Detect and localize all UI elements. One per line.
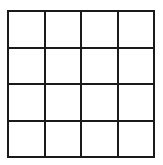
grid-cell[interactable] (119, 85, 154, 120)
grid-cell[interactable] (9, 49, 44, 84)
grid-cell[interactable] (9, 122, 44, 157)
image-canvas (0, 0, 163, 165)
grid-cell[interactable] (9, 12, 44, 47)
grid-cell[interactable] (82, 12, 117, 47)
grid-cell[interactable] (119, 12, 154, 47)
grid-figure (7, 10, 155, 158)
grid-cell[interactable] (9, 85, 44, 120)
grid-cell[interactable] (82, 122, 117, 157)
grid-cell[interactable] (82, 85, 117, 120)
grid-cell[interactable] (119, 122, 154, 157)
grid-cell[interactable] (82, 49, 117, 84)
grid-cell[interactable] (46, 85, 81, 120)
grid-cell[interactable] (119, 49, 154, 84)
grid-cell[interactable] (46, 49, 81, 84)
grid-cell[interactable] (46, 122, 81, 157)
grid-cell[interactable] (46, 12, 81, 47)
